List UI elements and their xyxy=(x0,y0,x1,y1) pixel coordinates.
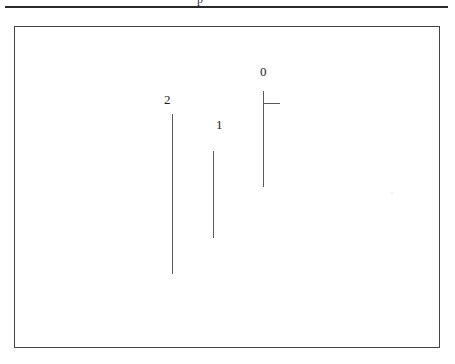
branch-stem-1 xyxy=(213,151,214,238)
clipped-title-glyph: p xyxy=(197,0,204,6)
page-canvas: p 2 1 0 xyxy=(0,0,455,364)
figure-frame: 2 1 0 xyxy=(14,26,440,348)
branch-label-0: 2 xyxy=(164,93,171,106)
scan-speck xyxy=(391,192,393,194)
branch-stem-0 xyxy=(172,114,173,274)
figure-plot-area: 2 1 0 xyxy=(15,27,439,347)
branch-label-1: 1 xyxy=(216,118,223,131)
clipped-title-glyph-text: p xyxy=(197,0,203,5)
branch-label-2: 0 xyxy=(260,65,267,78)
page-separator-rule xyxy=(5,6,448,8)
branch-tick-2-0 xyxy=(264,103,280,104)
branch-stem-2 xyxy=(263,91,264,187)
